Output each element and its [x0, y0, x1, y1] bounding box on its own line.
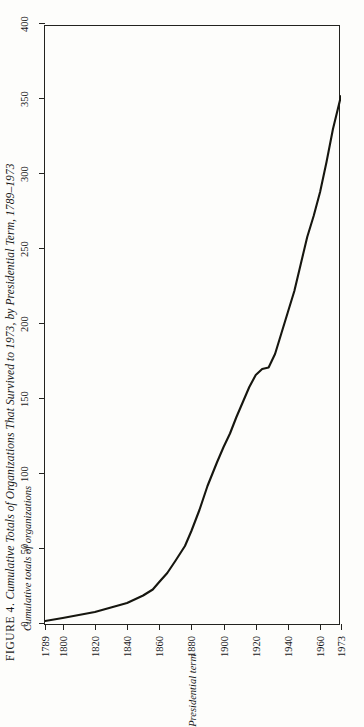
time-axis-title: Presidential term — [187, 654, 198, 727]
figure-caption-text: Cumulative Totals of Organizations That … — [4, 163, 16, 599]
time-axis-tick-label: 1973 — [336, 615, 347, 636]
figure-number: FIGURE 4. — [4, 603, 16, 661]
value-axis-tick-label: 150 — [19, 391, 30, 407]
series-canvas — [45, 24, 341, 624]
time-axis-tick-label: 1860 — [154, 615, 165, 636]
cumulative-totals-line — [45, 96, 341, 621]
value-axis-tick — [39, 548, 45, 549]
value-axis-tick-label: 350 — [19, 91, 30, 107]
value-axis-tick-label: 400 — [19, 16, 30, 32]
value-axis-tick-label: 250 — [19, 241, 30, 257]
time-axis-tick-label: 1800 — [57, 615, 68, 636]
value-axis-tick-label: 0 — [19, 621, 30, 626]
value-axis-tick-label: 200 — [19, 316, 30, 332]
value-axis-tick-label: 300 — [19, 166, 30, 182]
value-axis-tick — [39, 248, 45, 249]
time-axis-tick-label: 1900 — [218, 615, 229, 636]
value-axis-tick — [39, 473, 45, 474]
time-axis-tick-label: 1789 — [40, 615, 51, 636]
time-axis-tick-label: 1880 — [186, 615, 197, 636]
time-axis-tick-label: 1960 — [315, 615, 326, 636]
plot-area: Presidential term 0501001502002503003504… — [44, 25, 340, 625]
value-axis-tick — [39, 23, 45, 24]
value-axis-title: Cumulative totals of organizations — [22, 486, 33, 631]
value-axis-tick — [39, 173, 45, 174]
time-axis-tick-label: 1820 — [89, 615, 100, 636]
value-axis-tick — [39, 323, 45, 324]
time-axis-tick-label: 1840 — [122, 615, 133, 636]
value-axis-tick-label: 50 — [19, 544, 30, 555]
time-axis-tick-label: 1940 — [282, 615, 293, 636]
value-axis-tick — [39, 398, 45, 399]
figure-caption: FIGURE 4. Cumulative Totals of Organizat… — [4, 0, 16, 661]
time-axis-tick-label: 1920 — [250, 615, 261, 636]
value-axis-tick-label: 100 — [19, 466, 30, 482]
value-axis-tick — [39, 98, 45, 99]
